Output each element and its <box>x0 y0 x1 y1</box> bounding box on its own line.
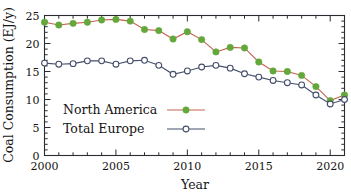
data-point <box>242 71 248 77</box>
data-point <box>156 62 162 68</box>
data-point <box>198 36 204 42</box>
data-point <box>170 36 176 42</box>
data-point <box>227 65 233 71</box>
data-point <box>70 20 76 26</box>
data-point <box>256 59 262 65</box>
chart-legend: North America Total Europe <box>63 102 205 136</box>
data-point <box>241 45 247 51</box>
chart-figure: 0510152025 20002005201020152020 Coal Con… <box>0 0 351 194</box>
data-point <box>284 80 290 86</box>
line-chart: 0510152025 20002005201020152020 Coal Con… <box>0 0 351 194</box>
data-point <box>184 68 190 74</box>
data-point <box>299 82 305 88</box>
x-tick-label: 2020 <box>316 160 344 173</box>
data-point <box>327 101 333 107</box>
data-point <box>313 83 319 89</box>
x-axis-ticks: 20002005201020152020 <box>31 16 345 173</box>
x-tick-label: 2010 <box>173 160 201 173</box>
data-point <box>113 61 119 67</box>
legend-marker-total-europe <box>183 126 189 132</box>
y-tick-label: 10 <box>26 94 40 107</box>
x-tick-label: 2005 <box>102 160 130 173</box>
y-tick-label: 20 <box>26 38 40 51</box>
legend-marker-north-america <box>183 107 189 113</box>
data-point <box>227 44 233 50</box>
data-point <box>199 64 205 70</box>
y-axis-title: Coal Consumption (EJ/y) <box>1 7 16 163</box>
x-tick-label: 2000 <box>31 160 59 173</box>
legend-label-total-europe: Total Europe <box>63 121 144 136</box>
data-point <box>342 97 348 103</box>
x-tick-label: 2015 <box>245 160 273 173</box>
x-axis-title: Year <box>180 177 209 192</box>
data-point <box>56 61 62 67</box>
data-point <box>127 18 133 24</box>
data-point <box>142 57 148 63</box>
series-total-europe <box>42 57 348 106</box>
data-point <box>41 19 47 25</box>
data-point <box>42 60 48 66</box>
data-point <box>213 62 219 68</box>
y-tick-label: 25 <box>26 10 40 23</box>
data-point <box>256 74 262 80</box>
data-point <box>156 27 162 33</box>
data-point <box>184 29 190 35</box>
legend-label-north-america: North America <box>63 102 158 117</box>
data-point <box>84 19 90 25</box>
series-layer <box>41 16 347 107</box>
data-point <box>313 92 319 98</box>
data-point <box>213 49 219 55</box>
data-point <box>70 61 76 67</box>
data-point <box>99 58 105 64</box>
y-tick-label: 5 <box>33 122 40 135</box>
data-point <box>56 22 62 28</box>
data-point <box>170 71 176 77</box>
data-point <box>113 16 119 22</box>
y-tick-label: 15 <box>26 66 40 79</box>
data-point <box>270 68 276 74</box>
data-point <box>270 78 276 84</box>
series-line <box>45 60 345 104</box>
data-point <box>298 72 304 78</box>
data-point <box>98 17 104 23</box>
legend-swatches <box>167 107 205 132</box>
data-point <box>284 68 290 74</box>
data-point <box>84 58 90 64</box>
data-point <box>127 58 133 64</box>
data-point <box>141 26 147 32</box>
